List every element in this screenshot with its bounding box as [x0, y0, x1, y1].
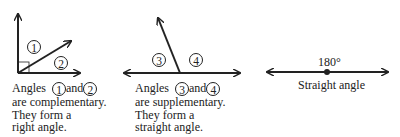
degree-label: 180°: [318, 56, 341, 69]
caption-line: straight angle.: [135, 121, 226, 134]
caption-line: right angle.: [12, 121, 107, 134]
complementary-caption: Angles 1and2 are complementary. They for…: [12, 82, 107, 134]
straight-angle-figure: [267, 69, 388, 75]
caption-line: are supplementary.: [135, 96, 226, 109]
caption-angle-4: 4: [206, 82, 220, 96]
angle-label-4: 4: [189, 53, 203, 67]
caption-word: Angles: [12, 81, 46, 95]
caption-angle-3: 3: [175, 82, 189, 96]
angle-label-3: 3: [152, 53, 166, 67]
straight-angle-caption: Straight angle: [298, 79, 365, 92]
caption-angle-1: 1: [52, 82, 66, 96]
angle-label-1: 1: [27, 40, 41, 54]
vertex-dot: [324, 69, 330, 75]
caption-line: are complementary.: [12, 96, 107, 109]
caption-word: and: [66, 81, 83, 95]
caption-word: and: [189, 81, 206, 95]
caption-angle-2: 2: [83, 82, 97, 96]
caption-word: Angles: [135, 81, 169, 95]
angle-label-2: 2: [54, 56, 68, 70]
supplementary-angle-figure: [124, 18, 240, 73]
supplementary-caption: Angles 3and4 are supplementary. They for…: [135, 82, 226, 134]
